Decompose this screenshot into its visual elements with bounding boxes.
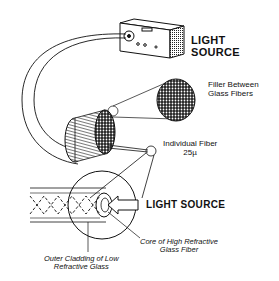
magnified-fiber [30, 171, 140, 252]
core-label: Core of High Refractive Glass Fiber [140, 238, 218, 255]
light-source-label-line2: SOURCE [191, 46, 240, 58]
core-label-line2: Glass Fiber [140, 246, 218, 254]
cladding-label: Outer Cladding of Low Refractive Glass [44, 255, 119, 272]
light-source-box [120, 19, 184, 58]
cladding-label-line2: Refractive Glass [44, 263, 119, 271]
filler-label: Filler Between Glass Fibers [208, 81, 259, 99]
fiber-optic-diagram: LIGHT SOURCE Filler Between Glass Fibers… [0, 0, 279, 281]
light-source-label-top: LIGHT SOURCE [191, 34, 240, 58]
fiber-bundle-end [65, 110, 115, 162]
individual-fiber-label: Individual Fiber 25µ [163, 140, 217, 158]
light-source-label-line1: LIGHT [191, 34, 240, 46]
filler-label-line2: Glass Fibers [208, 90, 259, 99]
filler-magnifier [108, 79, 195, 121]
individual-fiber-size: 25µ [163, 149, 217, 158]
light-source-label-bottom: LIGHT SOURCE [146, 199, 225, 210]
